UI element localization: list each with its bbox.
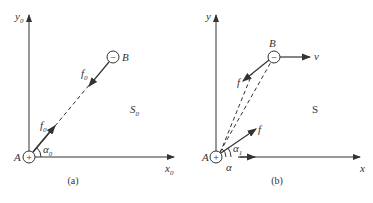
x0-axis-label: x0 (164, 162, 174, 177)
force-f-on-B-arrow (243, 60, 269, 81)
y-axis-label: y (205, 10, 211, 22)
dashed-line-AB (55, 84, 90, 126)
frame-label-S0: S0 (130, 103, 140, 118)
caption-b: (b) (271, 175, 283, 187)
force-f0-on-B-arrow (89, 62, 109, 86)
label-alpha0: α0 (43, 143, 53, 158)
panel-a: y0 x0 + − A B f0 f0 α0 S0 (a) (13, 10, 174, 187)
label-f0-A: f0 (40, 119, 47, 134)
plus-sign-icon: + (26, 152, 32, 163)
minus-sign-icon: − (110, 52, 116, 63)
dashed-line-AB (220, 62, 271, 152)
caption-a: (a) (67, 175, 78, 187)
label-B: B (269, 37, 276, 49)
y0-axis-label: y0 (14, 10, 24, 25)
frame-label-S: S (312, 103, 318, 115)
angle-arc-alpha0 (37, 148, 41, 157)
label-alpha1: α1 (233, 142, 242, 157)
label-A: A (201, 151, 209, 163)
label-alpha: α (226, 161, 232, 173)
plus-sign-icon: + (213, 152, 219, 163)
x-axis-label: x (359, 162, 365, 174)
label-A: A (13, 151, 21, 163)
minus-sign-icon: − (271, 52, 277, 63)
label-f-B: f (237, 76, 242, 88)
label-v: v (314, 50, 319, 62)
label-f0-B: f0 (81, 67, 88, 82)
diagram-canvas: y0 x0 + − A B f0 f0 α0 S0 (a) y x + − (0, 0, 373, 203)
label-f-A: f (258, 123, 263, 135)
angle-arc-alpha1 (228, 148, 231, 157)
panel-b: y x + − A B v f f α1 α S (b) (201, 10, 365, 187)
label-B: B (122, 51, 129, 63)
